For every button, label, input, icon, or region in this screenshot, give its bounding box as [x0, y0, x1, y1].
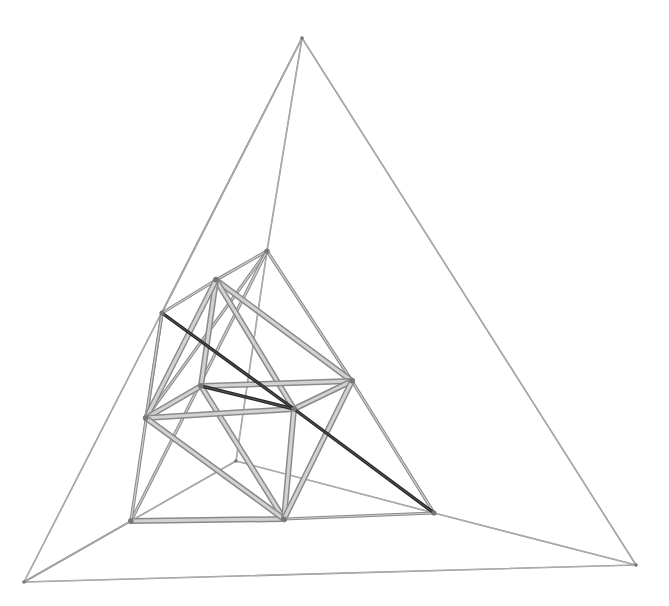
vertex-G — [349, 378, 354, 383]
edge-G-M — [284, 381, 352, 519]
edge-highlight — [352, 381, 434, 513]
edge-G-N — [352, 381, 434, 513]
edge-highlight — [267, 251, 352, 381]
vertex-M — [281, 516, 286, 521]
edge-D-G — [267, 251, 352, 381]
vertex-A — [300, 36, 304, 40]
polytope-wireframe — [0, 0, 669, 606]
edge-highlight — [302, 38, 636, 565]
edge-A-D — [267, 38, 302, 251]
vertex-C — [634, 563, 638, 567]
edge-highlight — [216, 280, 294, 409]
vertex-L — [128, 518, 133, 523]
edge-C-N — [434, 513, 636, 565]
vertex-N — [431, 510, 436, 515]
vertex-E — [213, 277, 218, 282]
edge-highlight — [267, 38, 302, 251]
vertex-H — [198, 383, 203, 388]
edge-L-M — [131, 519, 284, 521]
vertex-F — [159, 310, 164, 315]
vertex-I — [291, 406, 296, 411]
edge-N-M — [284, 513, 434, 519]
edge-H-G — [201, 381, 352, 386]
vertex-K — [234, 459, 238, 463]
edge-highlight — [434, 513, 636, 565]
edge-highlight — [24, 565, 636, 582]
vertex-B — [22, 580, 26, 584]
diagram-canvas — [0, 0, 669, 606]
edge-H-M — [201, 386, 284, 519]
vertex-D — [264, 248, 269, 253]
edge-B-C — [24, 565, 636, 582]
edge-highlight — [284, 381, 352, 519]
edge-A-C — [302, 38, 636, 565]
edge-highlight — [131, 519, 284, 521]
vertex-nodes — [22, 36, 638, 584]
vertex-J — [143, 415, 148, 420]
outer-thin-edges — [24, 38, 636, 582]
edge-E-I — [216, 280, 294, 409]
edge-highlight — [201, 386, 284, 519]
edge-highlight — [284, 513, 434, 519]
